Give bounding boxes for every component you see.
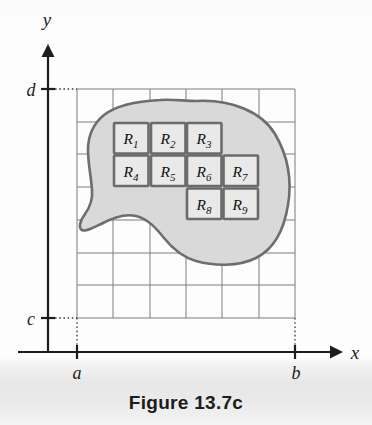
- figure-caption: Figure 13.7c: [0, 392, 372, 414]
- y-axis-label: y: [41, 9, 52, 30]
- b-tick-label: b: [292, 363, 301, 383]
- d-tick-label: d: [27, 80, 37, 100]
- figure-canvas: R1 R2 R3 R4 R5 R6 R7 R8 R9: [0, 0, 372, 425]
- a-tick-label: a: [73, 363, 82, 383]
- figure-page: R1 R2 R3 R4 R5 R6 R7 R8 R9: [0, 0, 372, 425]
- c-tick-label: c: [27, 309, 35, 329]
- x-axis-label: x: [350, 342, 360, 363]
